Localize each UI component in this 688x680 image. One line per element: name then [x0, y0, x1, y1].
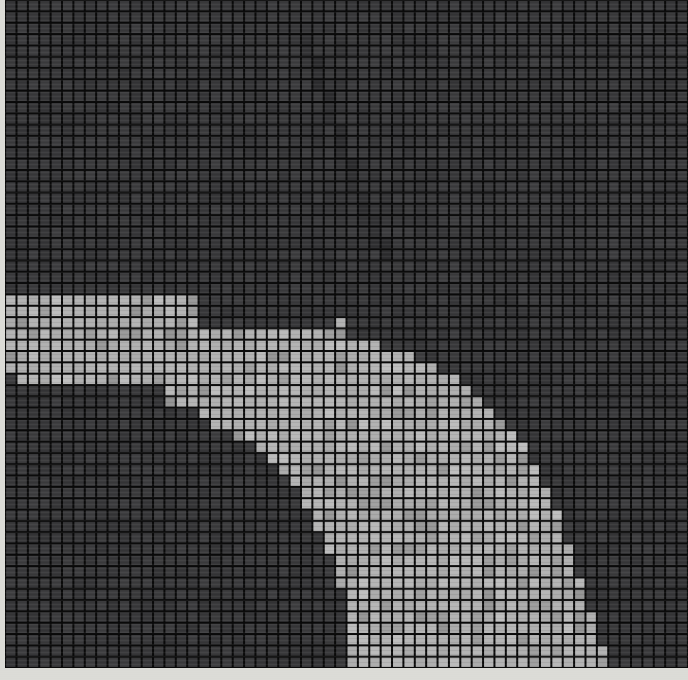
heatmap-plot-area: [5, 0, 688, 668]
bottom-margin-strip: [0, 668, 688, 680]
left-margin-strip: [0, 0, 5, 680]
heatmap-grid-canvas: [5, 0, 688, 668]
heatmap-figure: [0, 0, 688, 680]
